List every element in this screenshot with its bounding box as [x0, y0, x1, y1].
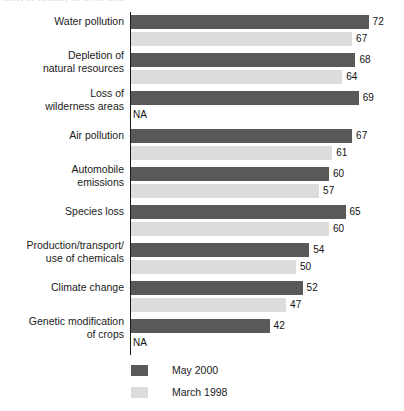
- na-marker: NA: [133, 338, 147, 348]
- bar: [131, 146, 332, 160]
- bar-value-label: 64: [346, 72, 357, 82]
- bar-group: Automobileemissions6057: [0, 167, 404, 201]
- category-label-line: natural resources: [0, 62, 124, 75]
- bar-group: Climate change5247: [0, 281, 404, 315]
- bar-value-label: 69: [363, 93, 374, 103]
- bar-value-label: 47: [290, 300, 301, 310]
- category-label: Species loss: [0, 205, 124, 218]
- category-label: Climate change: [0, 281, 124, 294]
- bar-value-label: 50: [300, 262, 311, 272]
- clipped-header-label: ……, … ………, … … … ……: [0, 0, 404, 3]
- category-label: Production/transport/use of chemicals: [0, 239, 124, 264]
- category-label: Water pollution: [0, 15, 124, 28]
- category-label-line: Species loss: [0, 205, 124, 218]
- bar-value-label: 61: [336, 148, 347, 158]
- legend-swatch: [131, 365, 148, 376]
- bar-value-label: 72: [373, 17, 384, 27]
- legend-swatch: [131, 387, 148, 398]
- bar: [131, 32, 352, 46]
- bar: [131, 70, 342, 84]
- plot-area: Water pollution7267Depletion ofnatural r…: [0, 12, 404, 356]
- category-label-line: of crops: [0, 328, 124, 341]
- legend-label: March 1998: [172, 386, 227, 398]
- legend-item[interactable]: March 1998: [131, 385, 391, 407]
- bar-value-label: 67: [356, 34, 367, 44]
- category-label-line: Genetic modification: [0, 315, 124, 328]
- bar: [131, 205, 346, 219]
- category-label: Depletion ofnatural resources: [0, 49, 124, 74]
- bar-value-label: 65: [350, 207, 361, 217]
- bar: [131, 298, 286, 312]
- bar: [131, 260, 296, 274]
- bar-group: Depletion ofnatural resources6864: [0, 53, 404, 87]
- bar-group: Air pollution6761: [0, 129, 404, 163]
- bar: [131, 243, 309, 257]
- bar-group: Genetic modificationof crops42NA: [0, 319, 404, 353]
- category-label-line: Loss of: [0, 87, 124, 100]
- bar-value-label: 60: [333, 169, 344, 179]
- legend-label: May 2000: [172, 364, 218, 376]
- bar-value-label: 67: [356, 131, 367, 141]
- bar: [131, 222, 329, 236]
- category-label-line: Climate change: [0, 281, 124, 294]
- category-label-line: wilderness areas: [0, 100, 124, 113]
- bar-value-label: 68: [359, 55, 370, 65]
- legend-item[interactable]: May 2000: [131, 363, 391, 385]
- category-label: Loss ofwilderness areas: [0, 87, 124, 112]
- bar: [131, 53, 355, 67]
- bar-value-label: 54: [313, 245, 324, 255]
- bar-value-label: 57: [323, 186, 334, 196]
- bar-value-label: 60: [333, 224, 344, 234]
- chart-legend: May 2000March 1998: [131, 363, 391, 407]
- bar-chart: ……, … ………, … … … …… Water pollution7267D…: [0, 0, 404, 411]
- bar-value-label: 52: [307, 283, 318, 293]
- category-label-line: Air pollution: [0, 129, 124, 142]
- category-label-line: Water pollution: [0, 15, 124, 28]
- bar: [131, 319, 270, 333]
- na-marker: NA: [133, 110, 147, 120]
- category-label-line: emissions: [0, 176, 124, 189]
- bar-group: Loss ofwilderness areas69NA: [0, 91, 404, 125]
- bar: [131, 167, 329, 181]
- category-label-line: Depletion of: [0, 49, 124, 62]
- bar: [131, 281, 303, 295]
- category-label: Automobileemissions: [0, 163, 124, 188]
- category-label: Air pollution: [0, 129, 124, 142]
- category-label: Genetic modificationof crops: [0, 315, 124, 340]
- bar: [131, 91, 359, 105]
- bar-group: Water pollution7267: [0, 15, 404, 49]
- category-label-line: Automobile: [0, 163, 124, 176]
- bar: [131, 15, 369, 29]
- category-label-line: use of chemicals: [0, 252, 124, 265]
- bar: [131, 129, 352, 143]
- bar-group: Species loss6560: [0, 205, 404, 239]
- bar: [131, 184, 319, 198]
- category-label-line: Production/transport/: [0, 239, 124, 252]
- bar-group: Production/transport/use of chemicals545…: [0, 243, 404, 277]
- bar-value-label: 42: [274, 321, 285, 331]
- clipped-header-text: ……, … ………, … … … ……: [0, 0, 404, 9]
